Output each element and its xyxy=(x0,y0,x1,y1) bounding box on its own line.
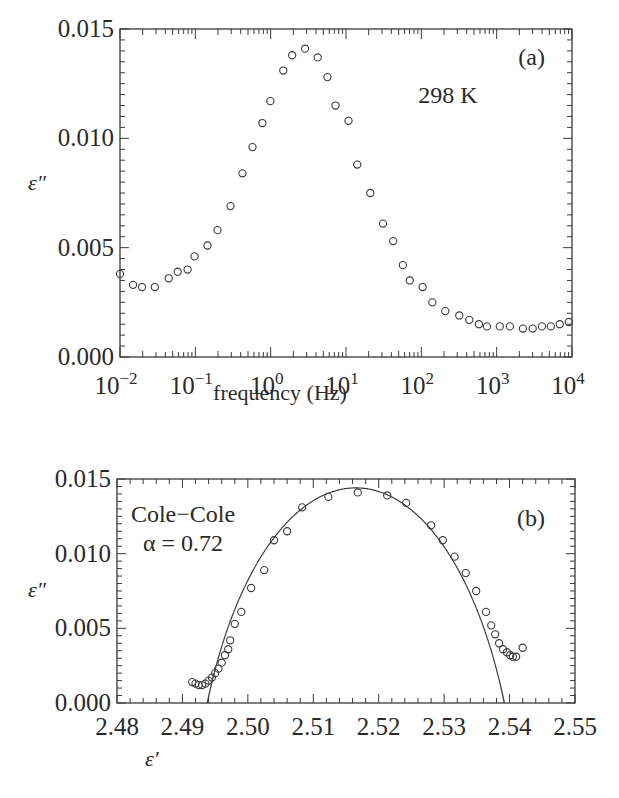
data-point xyxy=(259,119,266,126)
data-point xyxy=(519,644,526,651)
data-point xyxy=(390,238,397,245)
data-point xyxy=(496,323,503,330)
y-axis-label: ε″ xyxy=(28,170,47,195)
cole-cole-fit-line xyxy=(207,488,504,703)
x-tick-label: 2.48 xyxy=(95,713,139,740)
data-point xyxy=(301,45,308,52)
temperature-annotation: 298 K xyxy=(418,82,478,108)
data-point xyxy=(367,189,374,196)
x-tick-label: 2.49 xyxy=(161,713,205,740)
alpha-annotation: α = 0.72 xyxy=(143,530,223,556)
data-point xyxy=(429,299,436,306)
x-tick-label: 104 xyxy=(551,369,585,399)
data-point xyxy=(488,622,495,629)
data-point xyxy=(442,307,449,314)
data-point xyxy=(280,67,287,74)
data-point xyxy=(538,323,545,330)
data-point xyxy=(519,325,526,332)
data-point xyxy=(129,281,136,288)
data-point xyxy=(214,227,221,234)
data-point xyxy=(506,323,513,330)
y-tick-label: 0.005 xyxy=(58,234,114,261)
x-tick-label: 103 xyxy=(476,369,509,399)
data-point xyxy=(492,631,499,638)
data-point xyxy=(249,143,256,150)
data-point xyxy=(483,323,490,330)
data-point xyxy=(191,253,198,260)
x-axis-label: frequency (Hz) xyxy=(213,380,347,405)
data-point xyxy=(284,528,291,535)
data-point xyxy=(267,98,274,105)
plot-frame xyxy=(120,29,572,357)
y-tick-label: 0.010 xyxy=(58,124,114,151)
data-point xyxy=(419,283,426,290)
data-point xyxy=(399,262,406,269)
data-point xyxy=(225,646,232,653)
data-point xyxy=(547,323,554,330)
x-tick-label: 2.52 xyxy=(357,713,401,740)
x-tick-label: 2.51 xyxy=(291,713,335,740)
data-point xyxy=(439,537,446,544)
y-tick-label: 0.015 xyxy=(58,15,114,42)
data-point xyxy=(456,312,463,319)
data-point xyxy=(165,275,172,282)
y-tick-label: 0.010 xyxy=(55,540,111,567)
data-point xyxy=(299,504,306,511)
panel-b-chart: 0.0000.0050.0100.0152.482.492.502.512.52… xyxy=(28,465,597,771)
data-point xyxy=(451,553,458,560)
data-point xyxy=(289,52,296,59)
data-point xyxy=(204,242,211,249)
data-point xyxy=(324,74,331,81)
data-point xyxy=(231,620,238,627)
panel-a-chart: 0.0000.0050.0100.01510−210−1100101102103… xyxy=(28,15,585,405)
data-point xyxy=(239,170,246,177)
data-point xyxy=(238,608,245,615)
y-tick-label: 0.005 xyxy=(55,614,111,641)
x-tick-label: 10−1 xyxy=(170,369,213,399)
panel-label: (b) xyxy=(517,505,545,531)
panel-label: (a) xyxy=(518,44,545,70)
data-point xyxy=(314,54,321,61)
data-point xyxy=(184,266,191,273)
data-point xyxy=(473,587,480,594)
x-tick-label: 2.50 xyxy=(226,713,270,740)
figure: 0.0000.0050.0100.01510−210−1100101102103… xyxy=(0,0,619,798)
data-point xyxy=(475,321,482,328)
x-tick-label: 2.55 xyxy=(553,713,597,740)
model-annotation: Cole−Cole xyxy=(131,501,235,527)
data-point xyxy=(482,608,489,615)
data-point xyxy=(354,489,361,496)
data-point xyxy=(466,316,473,323)
x-tick-label: 10−2 xyxy=(94,369,137,399)
x-tick-label: 102 xyxy=(401,369,435,399)
data-point xyxy=(332,102,339,109)
data-point xyxy=(227,203,234,210)
data-point xyxy=(227,637,234,644)
data-point xyxy=(151,283,158,290)
x-tick-label: 2.53 xyxy=(422,713,466,740)
data-point xyxy=(379,220,386,227)
y-tick-label: 0.015 xyxy=(55,465,111,492)
data-point xyxy=(218,659,225,666)
x-axis-label: ε′ xyxy=(145,746,160,771)
y-axis-label: ε″ xyxy=(28,577,47,602)
data-point xyxy=(406,277,413,284)
data-point xyxy=(462,569,469,576)
data-point xyxy=(248,584,255,591)
data-point xyxy=(261,566,268,573)
y-tick-label: 0.000 xyxy=(55,689,111,716)
data-point xyxy=(138,283,145,290)
data-point xyxy=(325,493,332,500)
data-point xyxy=(345,117,352,124)
data-point xyxy=(529,325,536,332)
data-point xyxy=(427,522,434,529)
data-point xyxy=(556,321,563,328)
data-point xyxy=(354,161,361,168)
x-tick-label: 2.54 xyxy=(488,713,532,740)
data-point xyxy=(174,268,181,275)
y-tick-label: 0.000 xyxy=(58,343,114,370)
